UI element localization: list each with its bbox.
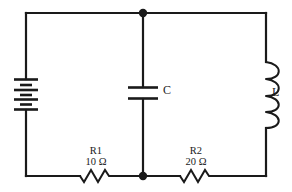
resistor-r2-name: R2	[164, 145, 228, 156]
battery-symbol	[14, 80, 38, 110]
top-junction-dot	[139, 9, 147, 17]
capacitor-label: C	[163, 84, 171, 97]
bottom-junction-dot	[139, 172, 147, 180]
resistor-r2-symbol	[180, 170, 212, 182]
resistor-r2-value: 20 Ω	[164, 156, 228, 167]
resistor-r2-label-group: R2 20 Ω	[164, 145, 228, 168]
capacitor-symbol	[128, 88, 158, 99]
resistor-r1-symbol	[80, 170, 112, 182]
resistor-r1-value: 10 Ω	[64, 156, 128, 167]
circuit-diagram-canvas: C L R1 10 Ω R2 20 Ω	[0, 0, 292, 192]
resistor-r1-name: R1	[64, 145, 128, 156]
resistor-r1-label-group: R1 10 Ω	[64, 145, 128, 168]
circuit-schematic	[0, 0, 292, 192]
inductor-label: L	[272, 86, 279, 99]
